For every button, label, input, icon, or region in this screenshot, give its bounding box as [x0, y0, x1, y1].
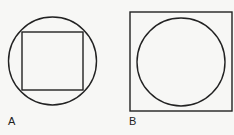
figure-b-label: B	[129, 115, 136, 127]
diagram-svg	[0, 0, 234, 135]
diagram-canvas: A B	[0, 0, 234, 135]
figure-a-square	[22, 32, 83, 90]
figure-a-label: A	[8, 115, 15, 127]
figure-b-square	[130, 12, 232, 111]
figure-b-circle	[137, 18, 225, 106]
figure-b	[130, 12, 232, 111]
figure-a	[9, 17, 97, 105]
